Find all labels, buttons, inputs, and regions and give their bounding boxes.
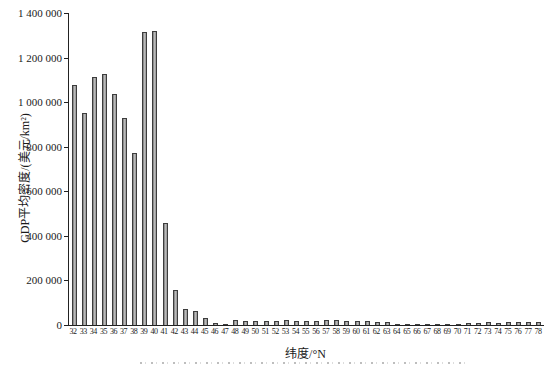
bar-lat-49: [243, 321, 248, 325]
x-tick-label: 45: [199, 327, 209, 337]
x-tick-label: 49: [240, 327, 250, 337]
y-tick-mark: [64, 280, 69, 281]
bar-lat-68: [435, 324, 440, 325]
x-tick-label: 72: [472, 327, 482, 337]
x-tick-label: 35: [98, 327, 108, 337]
bar-lat-72: [476, 323, 481, 325]
bar-lat-52: [274, 321, 279, 325]
x-tick-label: 53: [280, 327, 290, 337]
bar-lat-58: [334, 320, 339, 325]
bar-lat-42: [173, 290, 178, 325]
bar-lat-38: [132, 153, 137, 325]
x-tick-label: 62: [371, 327, 381, 337]
x-tick-label: 71: [462, 327, 472, 337]
x-tick-label: 70: [452, 327, 462, 337]
x-tick-label: 66: [412, 327, 422, 337]
x-tick-label: 55: [301, 327, 311, 337]
bar-lat-57: [324, 320, 329, 325]
x-tick-label: 37: [119, 327, 129, 337]
y-tick-mark: [64, 58, 69, 59]
bar-lat-61: [365, 321, 370, 325]
x-tick-label: 34: [88, 327, 98, 337]
bar-lat-35: [102, 74, 107, 325]
bar-lat-54: [294, 321, 299, 325]
gdp-density-latitude-bar-chart: GDP平均密度/(美元/km²) 0200 000400 000600 0008…: [0, 0, 549, 365]
x-axis-title: 纬度/°N: [68, 344, 543, 362]
x-tick-label: 42: [169, 327, 179, 337]
x-tick-label: 69: [442, 327, 452, 337]
bar-lat-65: [405, 324, 410, 325]
y-tick-mark: [64, 191, 69, 192]
x-tick-label: 77: [523, 327, 533, 337]
x-tick-label: 64: [392, 327, 402, 337]
y-tick-mark: [64, 147, 69, 148]
bar-lat-50: [253, 321, 258, 325]
x-tick-label: 57: [321, 327, 331, 337]
x-tick-label: 59: [341, 327, 351, 337]
x-tick-label: 47: [220, 327, 230, 337]
x-tick-label: 56: [311, 327, 321, 337]
bar-lat-70: [456, 324, 461, 325]
x-tick-label: 36: [108, 327, 118, 337]
y-tick-label: 1 400 000: [2, 8, 62, 18]
x-tick-label: 61: [361, 327, 371, 337]
cutoff-caption-fragment: [140, 362, 470, 364]
x-tick-label: 74: [493, 327, 503, 337]
bar-lat-41: [163, 223, 168, 326]
bar-lat-75: [506, 322, 511, 325]
y-tick-label: 1 000 000: [2, 97, 62, 107]
bar-lat-51: [264, 321, 269, 325]
x-tick-label: 54: [290, 327, 300, 337]
bar-lat-37: [122, 118, 127, 325]
x-tick-label: 41: [159, 327, 169, 337]
x-tick-label: 32: [68, 327, 78, 337]
x-tick-label: 33: [78, 327, 88, 337]
x-tick-label: 48: [230, 327, 240, 337]
y-tick-label: 200 000: [2, 275, 62, 285]
y-tick-mark: [64, 236, 69, 237]
bar-lat-47: [223, 324, 228, 325]
x-axis-tick-labels: 3233343536373839404142434445464748495051…: [68, 327, 543, 337]
y-tick-label: 600 000: [2, 186, 62, 196]
y-tick-mark: [64, 102, 69, 103]
y-tick-mark: [64, 13, 69, 14]
bar-lat-76: [516, 322, 521, 325]
x-tick-label: 65: [402, 327, 412, 337]
bar-lat-56: [314, 321, 319, 325]
bar-lat-53: [284, 320, 289, 325]
bar-lat-71: [466, 323, 471, 325]
plot-area: [68, 13, 544, 326]
bar-lat-77: [526, 322, 531, 325]
bar-lat-67: [425, 324, 430, 325]
x-tick-label: 68: [432, 327, 442, 337]
bar-lat-55: [304, 321, 309, 325]
y-tick-label: 800 000: [2, 142, 62, 152]
bar-lat-43: [183, 309, 188, 325]
bar-lat-59: [344, 321, 349, 325]
x-tick-label: 50: [250, 327, 260, 337]
y-tick-label: 400 000: [2, 231, 62, 241]
bar-lat-45: [203, 318, 208, 325]
x-tick-label: 67: [422, 327, 432, 337]
x-tick-label: 51: [260, 327, 270, 337]
x-tick-label: 76: [513, 327, 523, 337]
bar-lat-44: [193, 311, 198, 325]
x-tick-label: 43: [179, 327, 189, 337]
x-tick-label: 52: [270, 327, 280, 337]
x-tick-label: 39: [139, 327, 149, 337]
bar-lat-48: [233, 320, 238, 325]
bar-lat-46: [213, 323, 218, 325]
bar-lat-33: [82, 113, 87, 325]
x-tick-label: 78: [533, 327, 543, 337]
bar-lat-32: [72, 85, 77, 325]
x-tick-label: 58: [331, 327, 341, 337]
bar-lat-74: [496, 323, 501, 325]
bar-lat-62: [375, 322, 380, 325]
bar-lat-64: [395, 324, 400, 325]
y-tick-label: 1 200 000: [2, 53, 62, 63]
x-tick-label: 38: [129, 327, 139, 337]
x-tick-label: 75: [503, 327, 513, 337]
x-tick-label: 63: [381, 327, 391, 337]
x-tick-label: 40: [149, 327, 159, 337]
bar-lat-66: [415, 324, 420, 325]
